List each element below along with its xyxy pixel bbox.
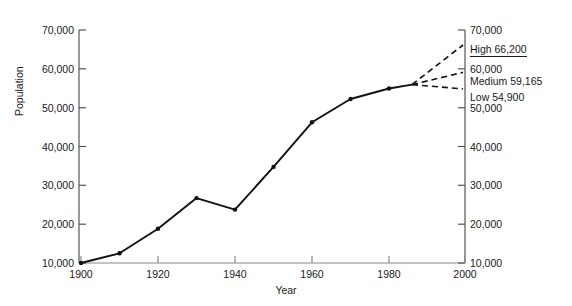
- data-point-1960: [310, 120, 314, 124]
- data-point-1930: [194, 196, 198, 200]
- x-axis-title: Year: [0, 285, 572, 296]
- low-projection-line: [412, 85, 463, 89]
- y-axis-left-tick-label: 10,000: [18, 258, 74, 269]
- y-axis-right-tick-label: 60,000: [470, 64, 502, 75]
- y-axis-left-tick-label: 20,000: [18, 219, 74, 230]
- y-axis-left-tick-label: 50,000: [18, 103, 74, 114]
- y-axis-right-tick-label: 70,000: [470, 25, 502, 36]
- x-axis-tick-label: 1940: [210, 269, 260, 280]
- y-axis-right-tick-label: 30,000: [470, 180, 502, 191]
- medium-projection-line: [412, 72, 463, 84]
- y-axis-title: Population: [14, 36, 25, 116]
- low-projection-label: Low 54,900: [470, 92, 524, 103]
- y-axis-left-tick-label: 40,000: [18, 142, 74, 153]
- high-projection-line: [412, 45, 463, 85]
- data-point-1950: [271, 165, 275, 169]
- data-point-1980: [387, 86, 391, 90]
- x-axis-tick-label: 2000: [440, 269, 490, 280]
- high-projection-label: High 66,200: [470, 44, 527, 55]
- y-axis-right-tick-label: 40,000: [470, 142, 502, 153]
- y-axis-left-tick-label: 30,000: [18, 180, 74, 191]
- x-axis-tick-label: 1960: [287, 269, 337, 280]
- y-axis-right-tick-label: 50,000: [470, 103, 502, 114]
- data-point-1920: [156, 227, 160, 231]
- data-point-1910: [117, 251, 121, 255]
- data-point-1940: [233, 207, 237, 211]
- y-axis-left-tick-label: 70,000: [18, 25, 74, 36]
- population-projection-chart: 70,000 60,000 50,000 40,000 30,000 20,00…: [0, 0, 572, 306]
- medium-projection-label: Medium 59,165: [470, 76, 542, 87]
- historical-population-line: [81, 85, 412, 263]
- x-axis-tick-label: 1900: [56, 269, 106, 280]
- high-projection-text: High 66,200: [470, 43, 527, 57]
- y-axis-right-tick-label: 20,000: [470, 219, 502, 230]
- x-axis-tick-label: 1980: [364, 269, 414, 280]
- data-point-1970: [348, 97, 352, 101]
- data-point-1900: [79, 261, 83, 265]
- y-axis-right-tick-label: 10,000: [470, 258, 502, 269]
- y-axis-left-tick-label: 60,000: [18, 64, 74, 75]
- x-axis-tick-label: 1920: [133, 269, 183, 280]
